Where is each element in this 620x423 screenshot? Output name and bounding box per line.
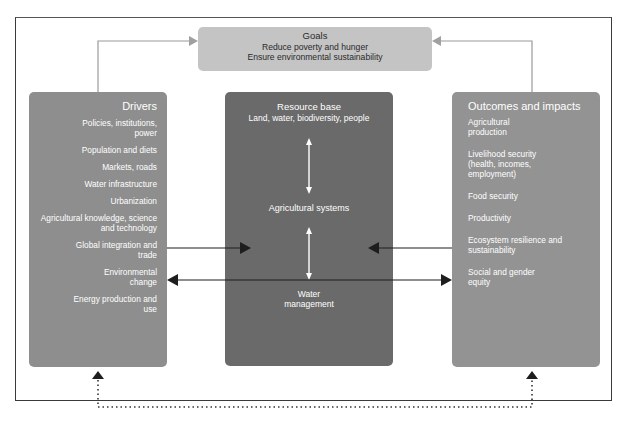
- outcomes-to-goals-arrow: [440, 41, 532, 92]
- arrowhead-down-icon: [306, 273, 312, 280]
- arrowhead-left-icon: [432, 36, 441, 46]
- dotted-feedback-loop: [98, 380, 532, 407]
- connector-arrows: [0, 0, 620, 423]
- arrowhead-down-icon: [306, 187, 312, 194]
- arrowhead-right-icon: [189, 36, 198, 46]
- arrowhead-up-icon: [526, 371, 538, 379]
- arrowhead-right-icon: [240, 242, 251, 254]
- arrowhead-up-icon: [306, 227, 312, 234]
- drivers-to-goals-arrow: [98, 41, 190, 92]
- cropped-caption-fragment: [40, 411, 600, 423]
- arrowhead-left-icon: [368, 242, 379, 254]
- arrowhead-right-icon: [441, 274, 452, 286]
- arrowhead-up-icon: [306, 138, 312, 145]
- arrowhead-left-icon: [167, 274, 178, 286]
- arrowhead-up-icon: [92, 371, 104, 379]
